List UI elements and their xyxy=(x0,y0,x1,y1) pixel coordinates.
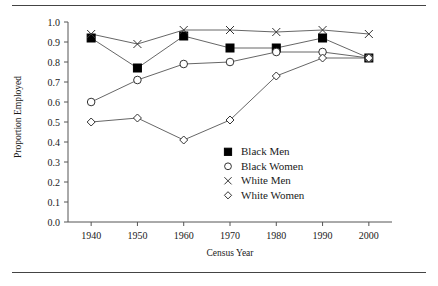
x-tick-label: 2000 xyxy=(359,230,379,241)
x-tick-label: 1980 xyxy=(266,230,286,241)
y-axis-ticks: 0.00.10.20.30.40.50.60.70.80.91.0 xyxy=(48,17,69,228)
chart-plot: 0.00.10.20.30.40.50.60.70.80.91.0 194019… xyxy=(0,0,438,286)
x-tick-label: 1970 xyxy=(220,230,240,241)
y-tick-label: 0.8 xyxy=(48,57,61,68)
y-tick-label: 1.0 xyxy=(48,17,61,28)
data-point-open-circle xyxy=(272,48,280,56)
chart-legend: Black MenBlack WomenWhite MenWhite Women xyxy=(224,145,304,201)
series-markers xyxy=(87,26,373,144)
data-point-filled-square xyxy=(224,148,231,155)
data-point-open-diamond xyxy=(224,192,231,199)
data-point-open-diamond xyxy=(180,136,188,144)
y-tick-label: 0.1 xyxy=(48,197,61,208)
legend-label: White Women xyxy=(241,189,305,201)
data-point-open-diamond xyxy=(133,114,141,122)
y-tick-label: 0.5 xyxy=(48,117,61,128)
data-point-open-circle xyxy=(225,163,232,170)
x-tick-label: 1960 xyxy=(174,230,194,241)
x-tick-label: 1950 xyxy=(127,230,147,241)
series-line xyxy=(91,30,369,44)
data-point-filled-square xyxy=(133,64,141,72)
data-point-open-diamond xyxy=(87,118,95,126)
x-tick-label: 1990 xyxy=(313,230,333,241)
y-axis-label: Proportion Employed xyxy=(13,47,23,187)
legend-label: Black Men xyxy=(241,145,290,157)
y-tick-label: 0.4 xyxy=(48,137,61,148)
y-tick-label: 0.2 xyxy=(48,177,61,188)
y-tick-label: 0.6 xyxy=(48,97,61,108)
data-point-cross xyxy=(133,40,141,48)
x-axis-ticks: 1940195019601970198019902000 xyxy=(81,222,379,241)
data-point-open-circle xyxy=(180,60,188,68)
series-line xyxy=(91,58,369,140)
y-tick-label: 0.0 xyxy=(48,217,61,228)
legend-label: Black Women xyxy=(241,160,304,172)
data-point-filled-square xyxy=(87,34,95,42)
data-point-open-circle xyxy=(226,58,234,66)
data-point-open-circle xyxy=(87,98,95,106)
y-tick-label: 0.7 xyxy=(48,77,61,88)
data-point-open-circle xyxy=(134,76,142,84)
figure: 0.00.10.20.30.40.50.60.70.80.91.0 194019… xyxy=(0,0,438,286)
data-point-cross xyxy=(224,177,231,184)
x-axis-label: Census Year xyxy=(68,248,392,258)
legend-label: White Men xyxy=(241,174,291,186)
data-point-filled-square xyxy=(319,34,327,42)
y-tick-label: 0.9 xyxy=(48,37,61,48)
x-tick-label: 1940 xyxy=(81,230,101,241)
data-point-filled-square xyxy=(226,44,234,52)
y-tick-label: 0.3 xyxy=(48,157,61,168)
